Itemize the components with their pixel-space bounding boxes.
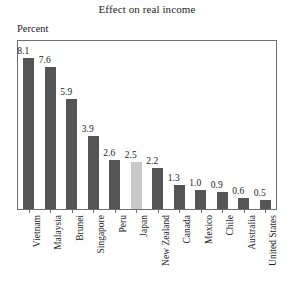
x-axis-label-japan: Japan [140,215,150,237]
plot-area: 8.17.65.93.92.62.52.21.31.00.90.60.5 [18,41,276,209]
bar-value-label: 1.0 [189,179,201,189]
bar-brunei [66,99,77,209]
bar-australia [238,198,249,209]
bar-value-label: 0.5 [254,189,266,199]
x-axis-tick [158,210,159,213]
chart-title: Effect on real income [0,3,294,15]
bar-value-label: 0.9 [211,181,223,191]
x-axis-category-labels: VietnamMalaysiaBruneiSingaporePeruJapanN… [18,215,276,305]
bar-new-zealand [152,168,163,209]
x-axis-label-new-zealand: New Zealand [162,215,172,266]
bar-canada [174,185,185,209]
bar-malaysia [45,67,56,209]
x-axis-tick [179,210,180,213]
x-axis-label-australia: Australia [248,215,258,250]
bar-value-label: 0.6 [232,187,244,197]
bar-value-label: 2.5 [125,151,137,161]
bar-peru [109,160,120,209]
x-axis-tick [244,210,245,213]
x-axis-label-brunei: Brunei [76,215,86,241]
x-axis-label-malaysia: Malaysia [54,215,64,250]
x-axis-label-peru: Peru [119,215,129,232]
bar-value-label: 1.3 [168,174,180,184]
x-axis-label-canada: Canada [183,215,193,244]
x-axis-tick [72,210,73,213]
x-axis-tick [265,210,266,213]
bar-japan [131,162,142,209]
bar-value-label: 8.1 [17,47,29,57]
bar-vietnam [23,58,34,209]
x-axis-label-united-states: United States [269,215,279,266]
bar-value-label: 7.6 [39,56,51,66]
x-axis-tick [115,210,116,213]
x-axis-label-mexico: Mexico [205,215,215,244]
x-axis-tick [201,210,202,213]
x-axis-tick [50,210,51,213]
bar-singapore [88,136,99,209]
y-axis-label: Percent [17,23,49,34]
x-axis-label-chile: Chile [226,215,236,236]
x-axis-tick [136,210,137,213]
bar-chile [217,192,228,209]
bar-united-states [260,200,271,209]
bar-value-label: 2.2 [146,157,158,167]
bar-mexico [195,190,206,209]
x-axis-tick [29,210,30,213]
bar-value-label: 5.9 [60,88,72,98]
chart-figure: Effect on real income Percent 8.17.65.93… [0,0,294,307]
x-axis-ticks [18,210,276,214]
x-axis-tick [93,210,94,213]
x-axis-label-singapore: Singapore [97,215,107,254]
x-axis-label-vietnam: Vietnam [33,215,43,247]
x-axis-tick [222,210,223,213]
bar-value-label: 2.6 [103,149,115,159]
bar-value-label: 3.9 [82,125,94,135]
